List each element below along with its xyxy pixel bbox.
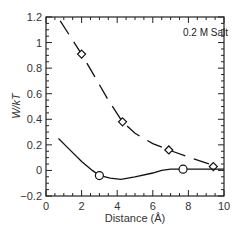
plot-series [59,21,225,180]
x-tick-label: 2 [79,200,85,212]
circle-marker [95,172,103,180]
y-tick-label: 0 [36,164,42,176]
y-tick-label: 0.6 [27,88,42,100]
y-tick-label: 0.4 [27,113,42,125]
tick-labels: 02468101.210.80.60.40.20−0.2 [20,11,230,212]
dashed-curve [60,21,217,167]
x-tick-label: 8 [185,200,191,212]
chart: 02468101.210.80.60.40.20−0.2 0.2 M Salt … [0,0,238,236]
y-tick-label: 1 [36,37,42,49]
diamond-marker [119,118,127,126]
y-axis-label: W/kT [10,92,22,119]
diamond-marker [78,50,86,58]
salt-annotation: 0.2 M Salt [183,27,228,38]
diamond-marker [165,146,173,154]
x-tick-label: 10 [218,200,230,212]
y-tick-label: 0.8 [27,62,42,74]
x-tick-label: 6 [150,200,156,212]
solid-curve [59,139,225,180]
circle-marker [179,165,187,173]
y-tick-label: 1.2 [27,11,42,23]
x-tick-label: 4 [114,200,120,212]
y-tick-label: 0.2 [27,139,42,151]
x-axis-label: Distance (Å) [105,212,166,224]
y-tick-label: −0.2 [20,190,42,202]
x-tick-label: 0 [43,200,49,212]
